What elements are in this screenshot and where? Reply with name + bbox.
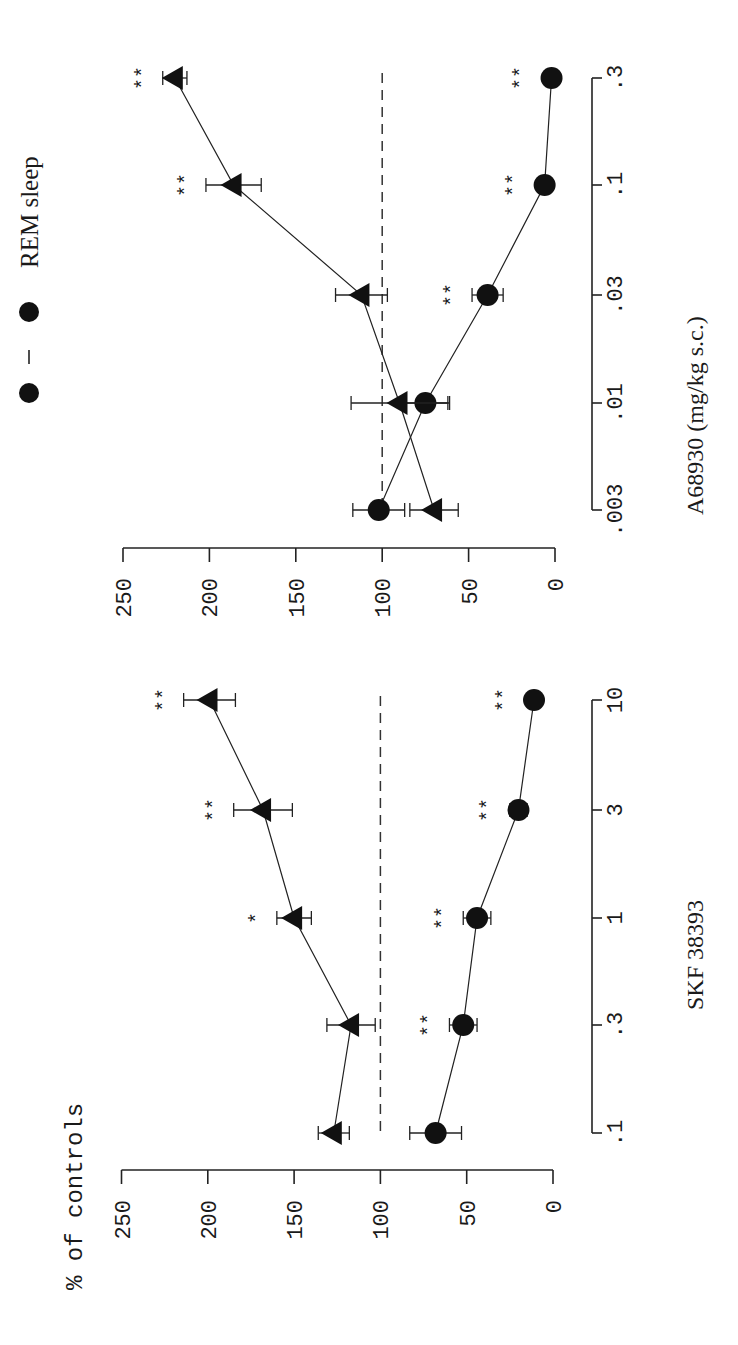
- circle-marker-icon: [425, 1122, 447, 1144]
- triangle-marker-icon: [338, 1013, 359, 1037]
- series-line: [379, 78, 552, 510]
- triangle-marker-icon: [321, 1121, 342, 1145]
- circle-marker-icon: [507, 799, 529, 821]
- value-tick-label: 50: [457, 1200, 482, 1226]
- dose-axis: .1.31310: [592, 687, 629, 1146]
- value-axis: 050100150200250: [112, 1170, 569, 1240]
- dose-tick-label: .01: [604, 383, 629, 423]
- value-tick-label: 250: [113, 578, 138, 618]
- series-line: [210, 700, 352, 1133]
- triangle-marker-icon: [250, 798, 271, 822]
- circle-marker-icon: [523, 689, 545, 711]
- value-tick-label: 100: [372, 578, 397, 618]
- y-axis-title: % of controls: [62, 1103, 89, 1290]
- chart-canvas: REM sleep % of controls 050100150200250 …: [0, 0, 738, 1345]
- value-tick-label: 150: [284, 1200, 309, 1240]
- panel-skf38393: 050100150200250 .1.31310 ************* S…: [112, 687, 709, 1240]
- panel-a68930: 050100150200250 .003.01.03.1.3 *********…: [113, 65, 708, 618]
- circle-marker-icon: [466, 907, 488, 929]
- circle-marker-icon: [477, 284, 499, 306]
- significance-marker: **: [432, 906, 455, 930]
- significance-marker: **: [132, 66, 155, 90]
- legend: REM sleep: [16, 156, 43, 403]
- value-tick-label: 200: [199, 578, 224, 618]
- significance-marker: *: [246, 912, 269, 924]
- value-tick-label: 50: [459, 578, 484, 604]
- x-axis-title: A68930 (mg/kg s.c.): [682, 316, 708, 515]
- significance-marker: **: [203, 798, 226, 822]
- value-axis: 050100150200250: [113, 548, 570, 618]
- value-tick-label: 150: [286, 578, 311, 618]
- significance-marker: **: [510, 66, 533, 90]
- value-tick-label: 100: [370, 1200, 395, 1240]
- dose-tick-label: 3: [604, 803, 629, 816]
- significance-marker: **: [153, 688, 176, 712]
- dose-tick-label: 10: [604, 687, 629, 713]
- value-tick-label: 200: [198, 1200, 223, 1240]
- triangle-marker-icon: [197, 688, 218, 712]
- dose-response-figure: REM sleep % of controls 050100150200250 …: [0, 0, 738, 1345]
- dose-tick-label: .1: [604, 172, 629, 198]
- x-axis-title: SKF 38393: [682, 900, 708, 1010]
- legend-circle-icon: [19, 383, 39, 403]
- triangle-marker-icon: [221, 173, 242, 197]
- dose-tick-label: .3: [604, 65, 629, 91]
- legend-label: REM sleep: [16, 156, 43, 268]
- circle-marker-icon: [452, 1014, 474, 1036]
- series-line: [175, 78, 434, 510]
- significance-marker: **: [418, 1013, 441, 1037]
- triangle-marker-icon: [162, 66, 183, 90]
- value-tick-label: 0: [545, 578, 570, 591]
- dose-tick-label: .1: [604, 1120, 629, 1146]
- dose-tick-label: .3: [604, 1012, 629, 1038]
- significance-marker: **: [493, 688, 516, 712]
- circle-marker-icon: [534, 174, 556, 196]
- circle-marker-icon: [368, 499, 390, 521]
- circle-marker-icon: [541, 67, 563, 89]
- significance-marker: **: [441, 283, 464, 307]
- dose-tick-label: .03: [604, 275, 629, 315]
- dose-axis: .003.01.03.1.3: [592, 65, 629, 537]
- dose-tick-label: 1: [604, 911, 629, 924]
- significance-marker: **: [503, 173, 526, 197]
- legend-circle-icon: [19, 302, 39, 322]
- value-tick-label: 250: [112, 1200, 137, 1240]
- dose-tick-label: .003: [604, 484, 629, 537]
- data-series: *************: [153, 688, 545, 1145]
- data-series: **********: [132, 66, 563, 522]
- significance-marker: **: [477, 798, 500, 822]
- value-tick-label: 0: [543, 1200, 568, 1213]
- significance-marker: **: [175, 173, 198, 197]
